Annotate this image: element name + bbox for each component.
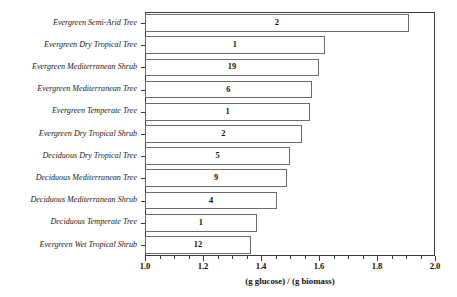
x-axis-minor-tick <box>247 256 248 259</box>
y-axis-tick-label: Evergreen Wet Tropical Shrub <box>0 241 141 249</box>
x-axis-minor-tick <box>348 256 349 259</box>
bar-count-label: 19 <box>145 63 319 71</box>
x-axis-title: (g glucose) / (g biomass) <box>145 276 435 286</box>
y-axis-tick-label: Evergreen Mediterranean Tree <box>0 85 141 93</box>
x-axis-tick-label: 2.0 <box>430 262 441 271</box>
x-axis-tick-label: 1.2 <box>198 262 209 271</box>
y-axis-tick-label: Evergreen Dry Tropical Shrub <box>0 130 141 138</box>
x-axis-minor-tick <box>160 256 161 259</box>
x-axis-minor-tick <box>174 256 175 259</box>
bar-count-label: 5 <box>145 152 290 160</box>
x-axis-minor-tick <box>406 256 407 259</box>
bar-count-label: 6 <box>145 85 312 93</box>
x-axis-minor-tick <box>290 256 291 259</box>
y-axis-category-labels: Evergreen Semi-Arid TreeEvergreen Dry Tr… <box>0 12 141 256</box>
y-axis-tick-label: Deciduous Temperate Tree <box>0 218 141 226</box>
bar-count-label: 12 <box>145 241 251 249</box>
bar-count-label: 1 <box>145 108 310 116</box>
bar-count-label: 2 <box>145 19 409 27</box>
bar-count-label: 1 <box>145 41 325 49</box>
y-axis-tick-label: Evergreen Mediterranean Shrub <box>0 63 141 71</box>
x-axis-minor-tick <box>334 256 335 259</box>
x-axis-tick-label: 1.4 <box>256 262 267 271</box>
y-axis-tick-mark <box>141 201 145 202</box>
x-axis-tick-label: 1.0 <box>140 262 151 271</box>
y-axis-tick-mark <box>141 45 145 46</box>
bars-layer: 2119612594112 <box>145 12 435 256</box>
y-axis-tick-label: Evergreen Dry Tropical Tree <box>0 41 141 49</box>
y-axis-tick-label: Evergreen Temperate Tree <box>0 107 141 115</box>
y-axis-tick-mark <box>141 67 145 68</box>
x-axis-minor-tick <box>421 256 422 259</box>
y-axis-tick-label: Deciduous Mediterranean Tree <box>0 174 141 182</box>
y-axis-tick-mark <box>141 245 145 246</box>
x-axis-minor-tick <box>363 256 364 259</box>
y-axis-tick-mark <box>141 90 145 91</box>
y-axis-tick-mark <box>141 223 145 224</box>
x-axis-minor-tick <box>189 256 190 259</box>
bar-count-label: 2 <box>145 130 302 138</box>
x-axis-minor-tick <box>305 256 306 259</box>
x-axis-minor-tick <box>392 256 393 259</box>
chart-figure: Evergreen Semi-Arid TreeEvergreen Dry Tr… <box>0 0 457 297</box>
y-axis-tick-mark <box>141 134 145 135</box>
bar-count-label: 4 <box>145 196 277 204</box>
bar-count-label: 9 <box>145 174 287 182</box>
y-axis-tick-mark <box>141 23 145 24</box>
y-axis-tick-label: Deciduous Mediterranean Shrub <box>0 196 141 204</box>
x-axis: 1.01.21.41.61.82.0 <box>145 256 435 257</box>
y-axis-tick-mark <box>141 178 145 179</box>
y-axis-tick-label: Deciduous Dry Tropical Tree <box>0 152 141 160</box>
x-axis-minor-tick <box>232 256 233 259</box>
y-axis-tick-mark <box>141 112 145 113</box>
y-axis-tick-label: Evergreen Semi-Arid Tree <box>0 19 141 27</box>
x-axis-minor-tick <box>276 256 277 259</box>
x-axis-minor-tick <box>218 256 219 259</box>
x-axis-tick-label: 1.6 <box>314 262 325 271</box>
bar-count-label: 1 <box>145 219 257 227</box>
x-axis-tick-label: 1.8 <box>372 262 383 271</box>
y-axis-tick-mark <box>141 156 145 157</box>
